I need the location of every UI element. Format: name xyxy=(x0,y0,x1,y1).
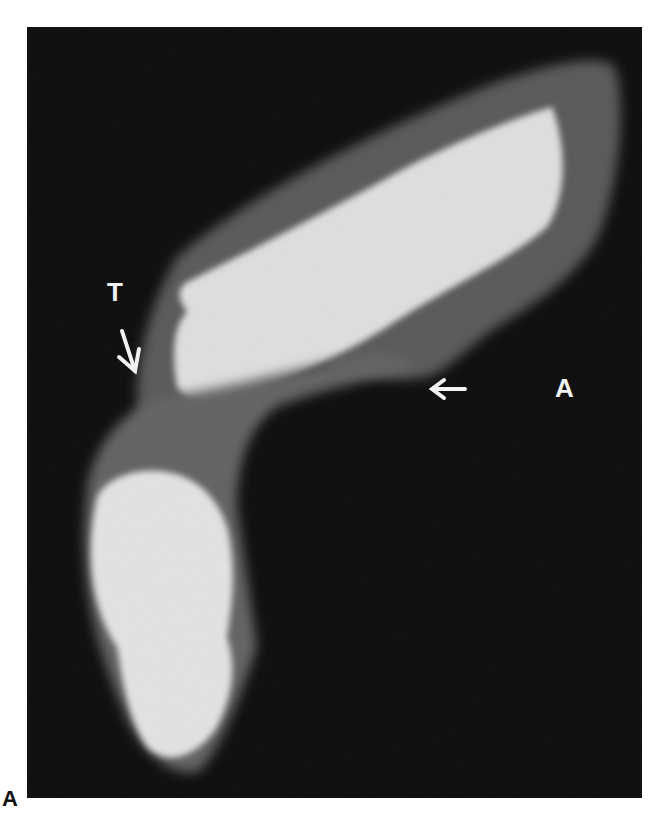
annotation-label-a: A xyxy=(555,375,574,401)
radiograph-image: T A xyxy=(27,27,642,798)
film-grain xyxy=(27,27,642,798)
radiograph-drawing xyxy=(27,27,642,798)
panel-label: A xyxy=(2,788,18,810)
annotation-label-t: T xyxy=(107,279,123,305)
